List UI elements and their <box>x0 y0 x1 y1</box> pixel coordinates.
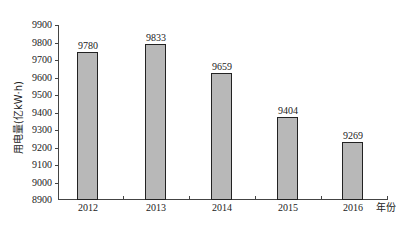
y-tick <box>55 95 58 96</box>
x-tick-label: 2016 <box>333 203 373 213</box>
x-tick <box>387 196 388 199</box>
y-tick <box>55 60 58 61</box>
bar-2012 <box>77 52 98 200</box>
y-tick <box>55 165 58 166</box>
bar-value-label: 9269 <box>333 131 373 141</box>
y-axis-line <box>58 25 59 200</box>
bar-value-label: 9404 <box>268 106 308 116</box>
bar-2014 <box>211 73 232 200</box>
y-tick <box>55 113 58 114</box>
y-tick <box>55 43 58 44</box>
y-tick-label: 8900 <box>12 195 52 205</box>
bar-2013 <box>145 44 166 200</box>
bar-value-label: 9833 <box>136 33 176 43</box>
y-tick <box>55 183 58 184</box>
y-tick <box>55 78 58 79</box>
x-tick-label: 2012 <box>68 203 108 213</box>
x-tick <box>321 196 322 199</box>
x-tick-label: 2015 <box>268 203 308 213</box>
x-axis-title: 年份 <box>376 203 396 213</box>
x-tick-label: 2013 <box>136 203 176 213</box>
x-tick-label: 2014 <box>202 203 242 213</box>
y-tick-label: 9700 <box>12 55 52 65</box>
x-tick <box>123 196 124 199</box>
bar-value-label: 9780 <box>68 41 108 51</box>
y-tick-label: 9500 <box>12 90 52 100</box>
y-tick <box>55 148 58 149</box>
x-tick <box>189 196 190 199</box>
bar-2016 <box>342 142 363 200</box>
bar-2015 <box>277 117 298 200</box>
y-tick-label: 9600 <box>12 73 52 83</box>
y-tick-label: 9000 <box>12 178 52 188</box>
y-tick-label: 9900 <box>12 20 52 30</box>
y-tick-label: 9300 <box>12 125 52 135</box>
y-tick <box>55 25 58 26</box>
y-tick-label: 9200 <box>12 143 52 153</box>
x-tick <box>255 196 256 199</box>
y-tick-label: 9100 <box>12 160 52 170</box>
bar-value-label: 9659 <box>202 62 242 72</box>
y-tick <box>55 130 58 131</box>
y-tick-label: 9400 <box>12 108 52 118</box>
y-tick-label: 9800 <box>12 38 52 48</box>
